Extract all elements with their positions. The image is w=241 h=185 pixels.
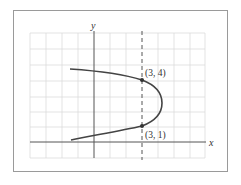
point-label-top: (3, 4) [145,68,166,79]
point-label-bottom: (3, 1) [145,130,166,141]
grid [30,33,205,158]
chart-canvas: x y (3, 4) (3, 1) [0,0,241,185]
point-3-4 [140,78,144,82]
y-axis-label: y [90,20,96,31]
x-axis-label: x [208,137,214,148]
point-3-1 [140,124,144,128]
